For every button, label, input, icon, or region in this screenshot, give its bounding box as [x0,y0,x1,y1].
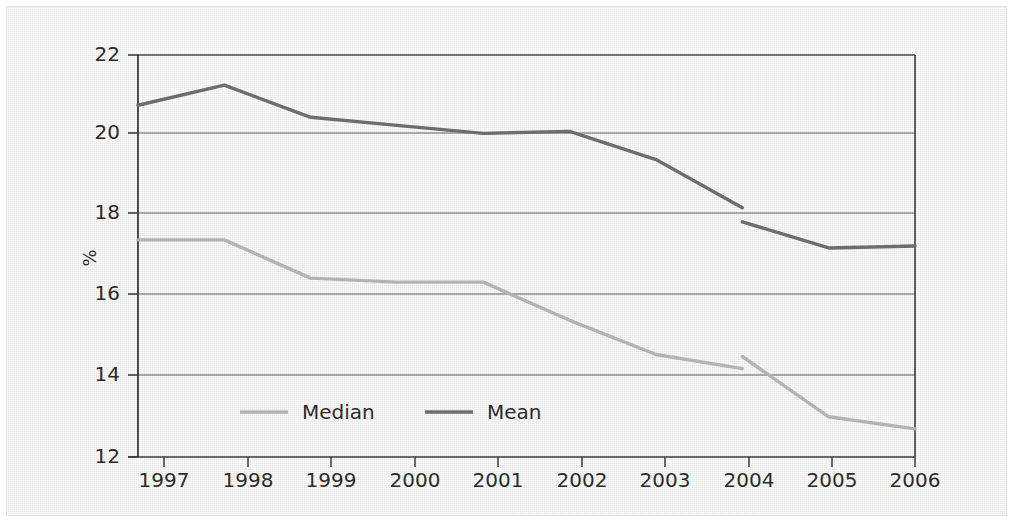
chart-legend: Median Mean [240,400,542,424]
chart-figure: 22 20 18 16 14 12 % 1997 1998 [0,0,1013,522]
x-tick-label-2005: 2005 [807,468,858,492]
x-tick-label-2001: 2001 [473,468,524,492]
gridlines [138,55,915,375]
y-tick-label-12: 12 [95,444,120,468]
y-tick-label-14: 14 [95,362,120,386]
y-tick-label-18: 18 [95,200,120,224]
legend-label-median: Median [302,400,375,424]
y-tick-marks [128,55,138,457]
x-tick-label-2004: 2004 [724,468,775,492]
line-chart: 22 20 18 16 14 12 % 1997 1998 [0,0,1013,522]
x-tick-label-1998: 1998 [223,468,274,492]
median-line-segment-1 [138,240,742,369]
x-tick-label-2006: 2006 [890,468,941,492]
x-tick-marks [164,457,915,467]
y-axis-title-group: % [79,249,100,266]
x-tick-label-1999: 1999 [306,468,357,492]
x-tick-label-2000: 2000 [390,468,441,492]
y-tick-label-16: 16 [95,281,120,305]
mean-line-segment-2 [742,222,915,248]
x-tick-label-1997: 1997 [139,468,190,492]
legend-label-mean: Mean [487,400,542,424]
x-tick-label-2002: 2002 [557,468,608,492]
mean-line-segment-1 [138,85,742,208]
y-tick-label-20: 20 [95,120,120,144]
y-tick-label-22: 22 [95,42,120,66]
x-tick-label-2003: 2003 [640,468,691,492]
median-line-segment-2 [742,357,915,429]
series-mean [138,85,915,248]
y-axis-title: % [79,249,100,266]
x-tick-labels: 1997 1998 1999 2000 2001 2002 2003 2004 … [139,468,941,492]
